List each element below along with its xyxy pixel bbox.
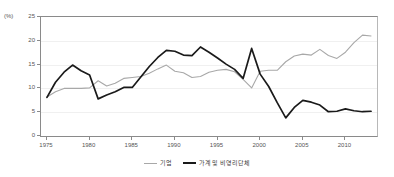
x-tick-mark-1985 xyxy=(131,137,132,140)
x-tick-label-1985: 1985 xyxy=(125,142,138,148)
y-tick-label-15: 15 xyxy=(28,61,35,67)
y-tick-label-20: 20 xyxy=(28,37,35,43)
legend-swatch-black-line-icon xyxy=(183,162,196,164)
legend-item-corporations: 기업 xyxy=(144,160,172,166)
x-tick-mark-2000 xyxy=(259,137,260,140)
series-lines xyxy=(41,17,377,136)
x-axis: 19751980198519901995200020052010 xyxy=(40,137,378,155)
y-tick-label-25: 25 xyxy=(28,13,35,19)
legend-item-households: 가계 및 비영리단체 xyxy=(183,160,250,166)
x-tick-label-2000: 2000 xyxy=(252,142,265,148)
x-tick-label-1995: 1995 xyxy=(210,142,223,148)
x-tick-label-1975: 1975 xyxy=(39,142,52,148)
x-tick-mark-1980 xyxy=(89,137,90,140)
y-tick-label-5: 5 xyxy=(32,108,35,114)
y-tick-label-0: 0 xyxy=(32,132,35,138)
x-tick-mark-2005 xyxy=(302,137,303,140)
chart-legend: 기업 가계 및 비영리단체 xyxy=(0,156,394,170)
series-line-corporations xyxy=(47,35,371,97)
y-axis: (%) 0510152025 xyxy=(0,0,40,137)
plot-area xyxy=(40,16,378,137)
x-tick-label-1990: 1990 xyxy=(167,142,180,148)
legend-swatch-gray-line-icon xyxy=(144,163,157,164)
y-axis-unit-label: (%) xyxy=(4,13,13,19)
x-tick-label-2005: 2005 xyxy=(295,142,308,148)
legend-label-corporations: 기업 xyxy=(160,160,172,166)
y-tick-label-10: 10 xyxy=(28,84,35,90)
x-tick-mark-1990 xyxy=(174,137,175,140)
x-tick-mark-2010 xyxy=(344,137,345,140)
legend-label-households: 가계 및 비영리단체 xyxy=(199,160,250,166)
x-tick-mark-1975 xyxy=(46,137,47,140)
x-tick-label-2010: 2010 xyxy=(338,142,351,148)
x-tick-mark-1995 xyxy=(217,137,218,140)
x-tick-label-1980: 1980 xyxy=(82,142,95,148)
chart-figure: (%) 0510152025 1975198019851990199520002… xyxy=(0,0,394,177)
